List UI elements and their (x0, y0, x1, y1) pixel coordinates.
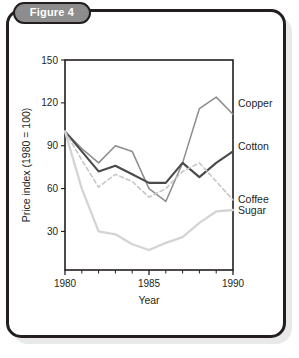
y-axis-title: Price index (1980 = 100) (20, 108, 32, 223)
series-line-coffee (65, 131, 233, 200)
x-axis-title: Year (138, 294, 160, 306)
y-tick-label: 30 (47, 226, 59, 237)
series-label-coffee: Coffee (238, 193, 269, 205)
series-line-sugar (65, 131, 233, 250)
y-tick-label: 120 (41, 97, 58, 108)
series-line-copper (65, 97, 233, 201)
figure-container: Figure 4 306090120150198019851990YearPri… (0, 0, 299, 358)
y-tick-label: 60 (47, 183, 59, 194)
price-index-line-chart: 306090120150198019851990YearPrice index … (0, 0, 299, 358)
x-tick-label: 1985 (138, 278, 161, 289)
x-tick-label: 1980 (54, 278, 77, 289)
y-tick-label: 90 (47, 140, 59, 151)
y-tick-label: 150 (41, 55, 58, 66)
series-line-cotton (65, 131, 233, 182)
series-label-sugar: Sugar (238, 204, 267, 216)
series-label-cotton: Cotton (238, 140, 269, 152)
series-label-copper: Copper (238, 97, 273, 109)
x-tick-label: 1990 (222, 278, 245, 289)
plot-frame (65, 60, 233, 270)
